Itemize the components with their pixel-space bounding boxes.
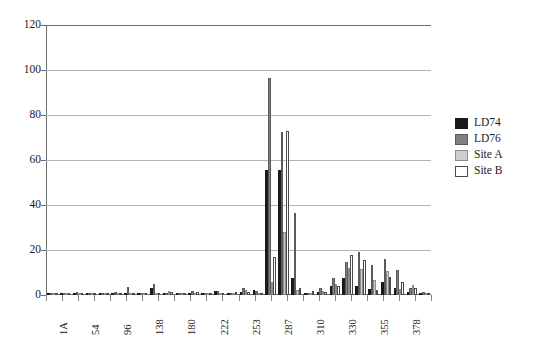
- bar: [299, 288, 302, 295]
- legend-label: Site A: [474, 149, 502, 161]
- legend-swatch-icon: [455, 166, 468, 177]
- bar: [363, 260, 366, 295]
- bar: [376, 290, 379, 295]
- bar: [235, 292, 238, 295]
- x-tick-label: 180: [187, 319, 198, 335]
- bar: [286, 131, 289, 295]
- bar: [414, 288, 417, 295]
- bar: [68, 293, 71, 295]
- y-tick-label: 0: [1, 289, 41, 301]
- bar: [183, 293, 186, 295]
- bar: [427, 293, 430, 295]
- legend-item[interactable]: Site A: [455, 147, 531, 163]
- bar: [119, 293, 122, 295]
- legend-item[interactable]: LD74: [455, 115, 531, 131]
- bar: [196, 292, 199, 295]
- bar: [294, 213, 297, 295]
- bar: [273, 257, 276, 295]
- x-tick-label: 222: [220, 319, 231, 335]
- chart-legend: LD74LD76Site ASite B: [455, 115, 531, 179]
- x-tick-label: 54: [91, 325, 102, 336]
- x-tick-label: 1A: [59, 322, 70, 335]
- y-tick-label: 80: [1, 109, 41, 121]
- legend-swatch-icon: [455, 150, 468, 161]
- x-tick-label: 96: [123, 325, 134, 336]
- bar: [158, 293, 161, 295]
- x-tick-mark: [431, 295, 432, 301]
- x-tick-label: 378: [412, 319, 423, 335]
- bar: [93, 293, 96, 295]
- x-axis-labels: 1A5496138180222253287310330355378: [46, 297, 431, 338]
- x-tick-label: 355: [380, 319, 391, 335]
- bar: [247, 292, 250, 295]
- y-tick-label: 100: [1, 64, 41, 76]
- legend-label: LD74: [474, 117, 501, 129]
- x-tick-label: 287: [284, 319, 295, 335]
- bar: [389, 277, 392, 295]
- legend-swatch-icon: [455, 134, 468, 145]
- bar: [324, 292, 327, 295]
- bar: [209, 293, 212, 295]
- bar: [145, 293, 148, 295]
- bar: [132, 293, 135, 295]
- bar: [268, 78, 271, 295]
- y-tick-label: 40: [1, 199, 41, 211]
- legend-label: Site B: [474, 165, 502, 177]
- bar-chart-figure: 020406080100120 1A5496138180222253287310…: [0, 0, 534, 338]
- legend-swatch-icon: [455, 118, 468, 129]
- bar: [81, 293, 84, 295]
- bar: [222, 293, 225, 295]
- bar: [401, 282, 404, 296]
- bar: [312, 291, 315, 296]
- x-tick-label: 253: [252, 319, 263, 335]
- legend-item[interactable]: Site B: [455, 163, 531, 179]
- legend-label: LD76: [474, 133, 501, 145]
- bar: [106, 293, 109, 295]
- bar: [55, 293, 58, 295]
- legend-item[interactable]: LD76: [455, 131, 531, 147]
- bars-layer: [46, 25, 431, 295]
- bar: [260, 293, 263, 295]
- bar: [350, 255, 353, 296]
- x-tick-label: 310: [316, 319, 327, 335]
- y-tick-label: 60: [1, 154, 41, 166]
- x-tick-label: 330: [348, 319, 359, 335]
- x-tick-label: 138: [155, 319, 166, 335]
- bar: [337, 286, 340, 295]
- y-tick-label: 20: [1, 244, 41, 256]
- y-tick-label: 120: [1, 19, 41, 31]
- bar: [170, 292, 173, 295]
